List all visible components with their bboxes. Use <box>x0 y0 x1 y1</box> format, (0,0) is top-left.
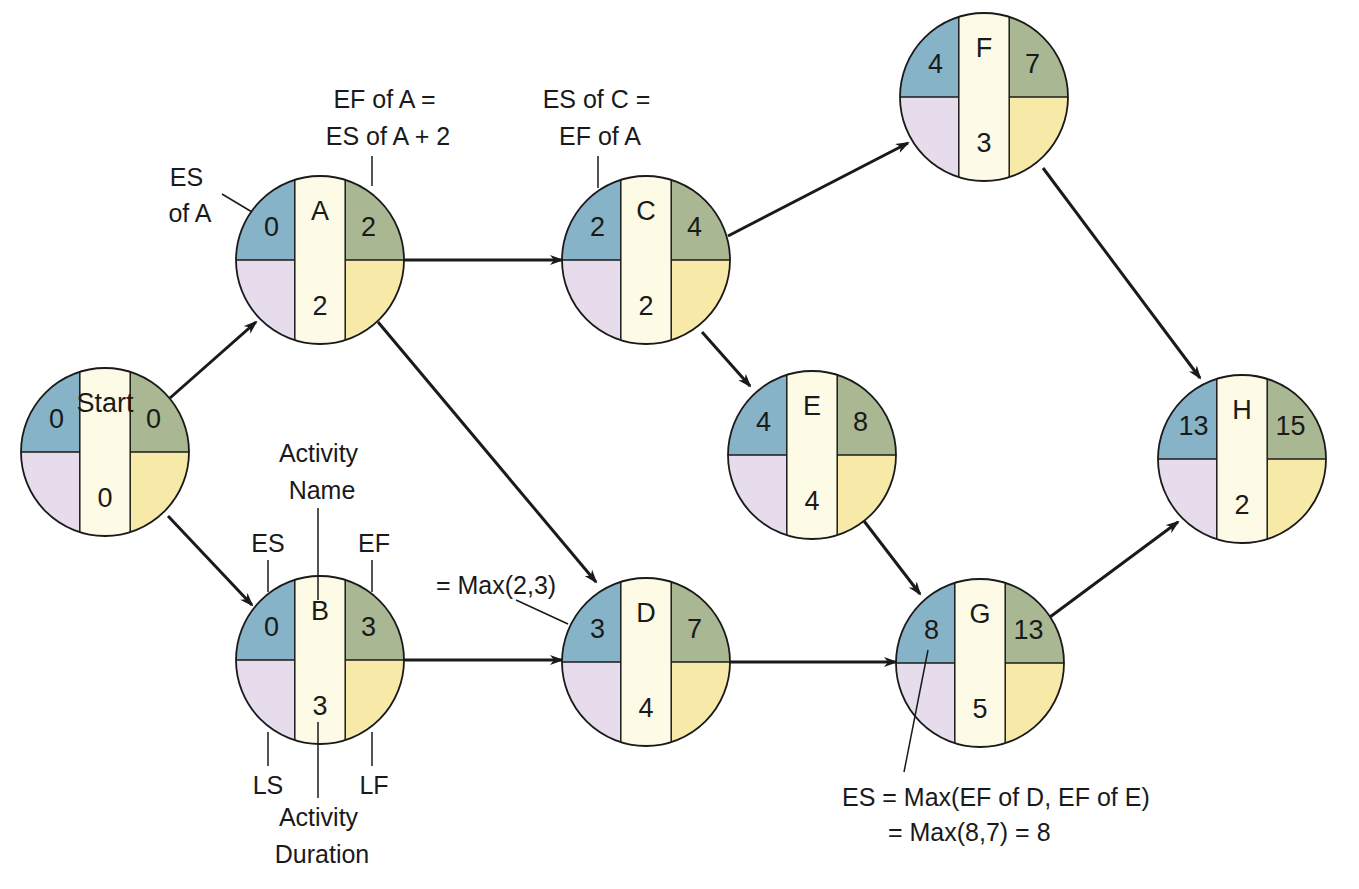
annotation-es-of-c: ES of C = EF of A <box>543 85 658 150</box>
activity-name: B <box>311 596 329 626</box>
edge-e-to-g <box>864 521 920 594</box>
activity-name: D <box>636 598 656 628</box>
annotation-activity-duration: Activity Duration <box>275 803 370 868</box>
edge-start-to-b <box>168 516 252 605</box>
activity-name: C <box>636 196 656 226</box>
duration-value: 0 <box>97 483 112 513</box>
lf-quadrant <box>130 452 189 536</box>
duration-value: 4 <box>638 693 653 723</box>
ef-value: 7 <box>1025 49 1040 79</box>
annotation-ef-label: EF <box>358 529 390 557</box>
ef-value: 13 <box>1014 615 1044 645</box>
activity-name: Start <box>76 388 134 418</box>
annotation-ef-of-a: EF of A = ES of A + 2 <box>326 85 450 150</box>
network-diagram: Start000A022B033C242D374E484F473G8135H13… <box>0 0 1359 889</box>
es-value: 0 <box>264 612 279 642</box>
lf-quadrant <box>1005 663 1064 747</box>
duration-value: 2 <box>312 291 327 321</box>
es-value: 0 <box>49 404 64 434</box>
duration-value: 3 <box>976 128 991 158</box>
node-h: H13152 <box>1158 375 1326 543</box>
ls-quadrant <box>900 97 959 181</box>
ls-quadrant <box>896 663 955 747</box>
es-value: 0 <box>264 212 279 242</box>
ef-value: 7 <box>687 614 702 644</box>
edge-a-to-d <box>378 322 596 582</box>
activity-name: G <box>969 599 990 629</box>
edge-c-to-e <box>702 332 750 386</box>
activity-name: H <box>1232 395 1252 425</box>
node-e: E484 <box>728 371 896 539</box>
ef-value: 2 <box>361 212 376 242</box>
node-c: C242 <box>562 176 730 344</box>
node-a: A022 <box>236 176 404 344</box>
es-value: 8 <box>924 615 939 645</box>
nodes: Start000A022B033C242D374E484F473G8135H13… <box>21 13 1326 747</box>
node-d: D374 <box>562 578 730 746</box>
duration-value: 4 <box>804 486 819 516</box>
ef-value: 0 <box>146 404 161 434</box>
lf-quadrant <box>345 260 404 344</box>
lf-quadrant <box>671 260 730 344</box>
lf-quadrant <box>1267 459 1326 543</box>
ls-quadrant <box>562 662 621 746</box>
annotation-max-d: = Max(2,3) <box>436 571 556 599</box>
edge-g-to-h <box>1050 522 1178 617</box>
duration-value: 2 <box>1234 490 1249 520</box>
lf-quadrant <box>671 662 730 746</box>
activity-name: F <box>976 33 993 63</box>
annotation-ls-label: LS <box>253 771 284 799</box>
ef-value: 8 <box>853 407 868 437</box>
es-value: 4 <box>756 407 771 437</box>
activity-name: E <box>803 391 821 421</box>
duration-value: 2 <box>638 291 653 321</box>
ef-value: 15 <box>1276 411 1306 441</box>
es-value: 4 <box>928 49 943 79</box>
ls-quadrant <box>236 660 295 744</box>
edge-c-to-f <box>728 143 908 236</box>
duration-value: 3 <box>312 691 327 721</box>
node-b: B033 <box>236 576 404 744</box>
node-start: Start000 <box>21 368 189 536</box>
annotation-activity-name: Activity Name <box>279 439 365 504</box>
ls-quadrant <box>21 452 80 536</box>
lf-quadrant <box>345 660 404 744</box>
ef-value: 3 <box>361 612 376 642</box>
ef-value: 4 <box>687 212 702 242</box>
annotation-es-label: ES <box>251 529 284 557</box>
lf-quadrant <box>1009 97 1068 181</box>
duration-value: 5 <box>972 694 987 724</box>
es-value: 3 <box>590 614 605 644</box>
ls-quadrant <box>728 455 787 539</box>
annotation-es-of-a: ES of A <box>168 163 211 227</box>
es-value: 13 <box>1178 411 1208 441</box>
node-g: G8135 <box>896 579 1064 747</box>
es-value: 2 <box>590 212 605 242</box>
activity-name: A <box>311 196 329 226</box>
ls-quadrant <box>562 260 621 344</box>
annotation-es-g: ES = Max(EF of D, EF of E) = Max(8,7) = … <box>842 783 1157 846</box>
edge-start-to-a <box>170 322 256 398</box>
node-f: F473 <box>900 13 1068 181</box>
edge-f-to-h <box>1043 168 1200 378</box>
annotation-lf-label: LF <box>359 771 388 799</box>
